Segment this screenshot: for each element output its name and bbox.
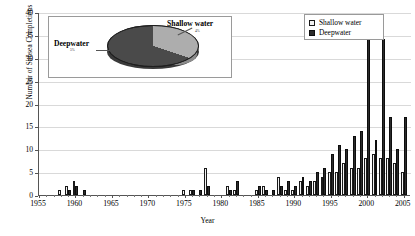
bar-deepwater-2002: [382, 39, 385, 195]
pie-percent-shallow-water: 4%: [195, 29, 200, 33]
x-minor-tick: [156, 195, 157, 197]
x-minor-tick: [309, 195, 310, 197]
x-minor-tick: [389, 195, 390, 197]
x-major-tick: [112, 195, 113, 198]
legend-label-deepwater: Deepwater: [319, 29, 351, 37]
y-tick-label: 35: [0, 32, 33, 40]
x-tick-label: 1960: [54, 199, 94, 208]
x-tick-label: 2000: [346, 199, 386, 208]
x-minor-tick: [134, 195, 135, 197]
y-tick-label: 15: [0, 123, 33, 131]
x-minor-tick: [127, 195, 128, 197]
bar-deepwater-1982: [236, 181, 239, 195]
x-tick-label: 1975: [164, 199, 204, 208]
x-minor-tick: [97, 195, 98, 197]
x-major-tick: [185, 195, 186, 198]
x-minor-tick: [141, 195, 142, 197]
x-minor-tick: [214, 195, 215, 197]
x-minor-tick: [207, 195, 208, 197]
x-minor-tick: [345, 195, 346, 197]
x-minor-tick: [353, 195, 354, 197]
x-axis-title: Year: [0, 216, 415, 225]
x-tick-label: 1990: [273, 199, 313, 208]
x-minor-tick: [199, 195, 200, 197]
x-minor-tick: [192, 195, 193, 197]
pie-label-shallow-water: Shallow water: [167, 19, 213, 28]
x-major-tick: [39, 195, 40, 198]
x-major-tick: [148, 195, 149, 198]
x-minor-tick: [170, 195, 171, 197]
x-major-tick: [404, 195, 405, 198]
x-minor-tick: [61, 195, 62, 197]
gridline: [39, 127, 411, 128]
x-major-tick: [75, 195, 76, 198]
x-minor-tick: [105, 195, 106, 197]
bar-deepwater-1985: [258, 186, 261, 195]
legend-swatch-deepwater: [309, 30, 315, 36]
x-tick-label: 2005: [383, 199, 415, 208]
y-tick-label: 10: [0, 146, 33, 154]
x-minor-tick: [302, 195, 303, 197]
bar-deepwater-1991: [302, 177, 305, 195]
bar-deepwater-1978: [207, 186, 210, 195]
y-tick-label: 5: [0, 169, 33, 177]
x-minor-tick: [83, 195, 84, 197]
x-minor-tick: [316, 195, 317, 197]
x-minor-tick: [236, 195, 237, 197]
x-tick-label: 1970: [127, 199, 167, 208]
bar-deepwater-1997: [345, 149, 348, 195]
y-tick-label: 30: [0, 55, 33, 63]
x-minor-tick: [287, 195, 288, 197]
x-minor-tick: [229, 195, 230, 197]
legend-item-shallow-water: Shallow water: [309, 18, 379, 28]
bar-deepwater-1989: [287, 181, 290, 195]
bar-deepwater-2000: [367, 30, 370, 195]
x-minor-tick: [280, 195, 281, 197]
x-tick-label: 1980: [200, 199, 240, 208]
legend-item-deepwater: Deepwater: [309, 28, 379, 38]
y-tick-mark: [35, 196, 39, 197]
legend-swatch-shallow-water: [309, 20, 315, 26]
bar-deepwater-1995: [331, 154, 334, 195]
x-minor-tick: [119, 195, 120, 197]
legend-box: Shallow water Deepwater: [304, 14, 384, 40]
bar-deepwater-1988: [280, 186, 283, 195]
gridline: [39, 105, 411, 106]
bar-deepwater-1994: [323, 168, 326, 195]
x-minor-tick: [163, 195, 164, 197]
bar-deepwater-2001: [375, 140, 378, 195]
x-tick-label: 1985: [237, 199, 277, 208]
x-minor-tick: [90, 195, 91, 197]
x-minor-tick: [251, 195, 252, 197]
bar-deepwater-1996: [338, 145, 341, 195]
x-minor-tick: [396, 195, 397, 197]
gridline: [39, 82, 411, 83]
x-minor-tick: [243, 195, 244, 197]
x-minor-tick: [382, 195, 383, 197]
bar-deepwater-1999: [360, 131, 363, 195]
bar-deepwater-2004: [396, 149, 399, 195]
pie-label-deepwater: Deepwater: [54, 39, 89, 48]
bar-deepwater-1993: [316, 172, 319, 195]
pie-inset-panel: Deepwater 5% Shallow water 4%: [48, 16, 232, 78]
x-tick-label: 1955: [18, 199, 58, 208]
x-minor-tick: [323, 195, 324, 197]
legend-label-shallow-water: Shallow water: [319, 19, 362, 27]
pie-leader-deepwater: [96, 50, 110, 51]
y-tick-label: 40: [0, 9, 33, 17]
y-tick-label: 20: [0, 101, 33, 109]
bar-deepwater-1998: [353, 136, 356, 195]
pie-percent-deepwater: 5%: [70, 48, 75, 52]
x-major-tick: [331, 195, 332, 198]
subsea-completions-chart: Number of Subsea Completions 05101520253…: [0, 0, 415, 236]
x-major-tick: [221, 195, 222, 198]
x-minor-tick: [46, 195, 47, 197]
y-tick-label: 25: [0, 78, 33, 86]
bar-deepwater-1960: [75, 186, 78, 195]
bar-deepwater-1992: [309, 181, 312, 195]
x-minor-tick: [68, 195, 69, 197]
x-tick-label: 1995: [310, 199, 350, 208]
x-minor-tick: [338, 195, 339, 197]
x-major-tick: [367, 195, 368, 198]
x-major-tick: [294, 195, 295, 198]
